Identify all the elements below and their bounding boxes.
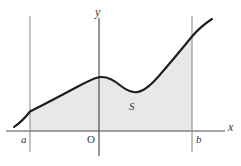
region-label-S: S bbox=[129, 101, 135, 112]
x-axis-label: x bbox=[228, 121, 233, 133]
figure-container: y x a b O S bbox=[0, 0, 241, 166]
upper-bound-label-b: b bbox=[196, 134, 202, 145]
shaded-region-S bbox=[30, 37, 192, 132]
area-under-curve-figure bbox=[0, 0, 241, 166]
lower-bound-label-a: a bbox=[21, 134, 27, 145]
y-axis-label: y bbox=[95, 6, 100, 18]
origin-label: O bbox=[87, 134, 95, 145]
